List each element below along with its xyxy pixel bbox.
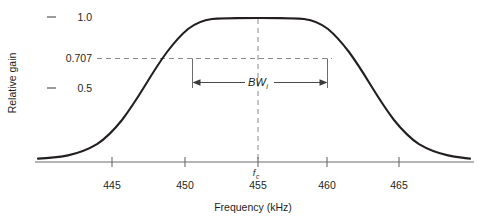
x-tick-label-450: 450	[176, 179, 194, 191]
y-tick-label-2: 0.707	[66, 52, 92, 64]
y-axis-ticks: 1.0 0.707 0.5	[47, 11, 92, 94]
x-tick-label-455: 455	[249, 179, 267, 191]
bandwidth-arrowhead-right	[320, 79, 328, 85]
center-frequency-label: fc	[253, 167, 260, 180]
figure-container: Relative gain 1.0 0.707 0.5 445	[0, 0, 496, 218]
y-tick-label-3: 0.5	[77, 82, 92, 94]
response-curve	[38, 18, 470, 159]
y-axis-title-text: Relative gain	[6, 52, 18, 113]
bandwidth-subscript: i	[266, 82, 268, 91]
y-axis-title: Relative gain	[6, 52, 18, 113]
bandwidth-arrowhead-left	[193, 79, 201, 85]
svg-text:BWi: BWi	[248, 76, 268, 91]
x-tick-label-465: 465	[390, 179, 408, 191]
bandwidth-symbol: BW	[248, 76, 267, 88]
y-tick-label-1: 1.0	[77, 11, 92, 23]
x-axis-tick-labels: 445 450 455 460 465	[103, 179, 408, 191]
bandwidth-label: BWi	[248, 76, 268, 91]
svg-text:fc: fc	[253, 167, 260, 180]
frequency-response-chart: Relative gain 1.0 0.707 0.5 445	[0, 0, 496, 218]
x-axis-title: Frequency (kHz)	[214, 201, 292, 213]
x-tick-label-460: 460	[318, 179, 336, 191]
x-tick-label-445: 445	[103, 179, 121, 191]
